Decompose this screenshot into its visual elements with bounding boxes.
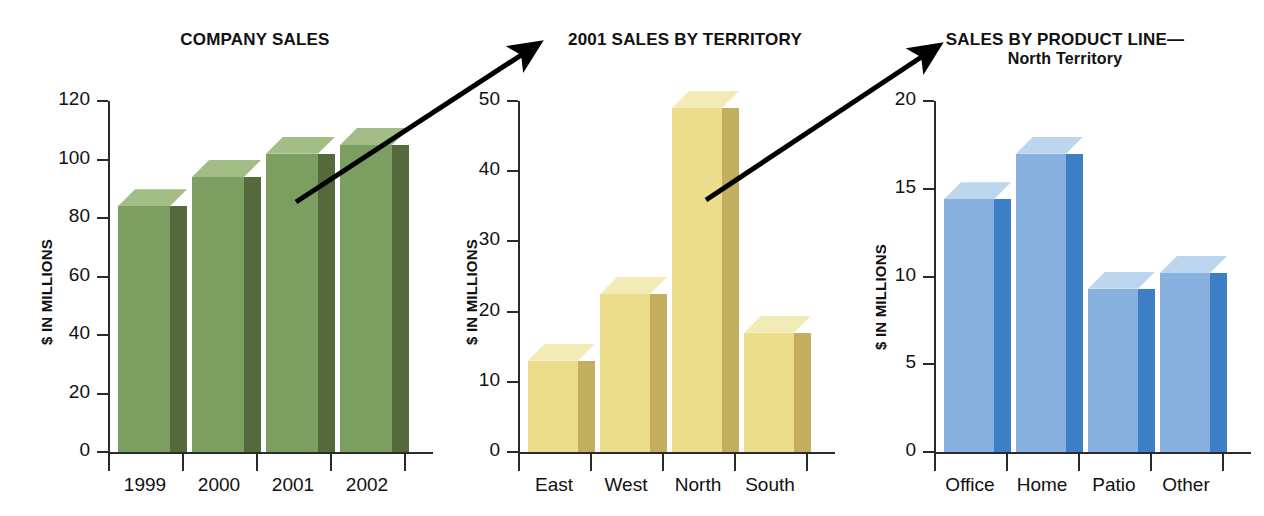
arrow-layer: [0, 0, 1264, 516]
arrow-company-to-territory: [296, 48, 532, 202]
arrow-territory-to-product: [706, 50, 932, 200]
figure-canvas: COMPANY SALES $ IN MILLIONS 020406080100…: [0, 0, 1264, 516]
